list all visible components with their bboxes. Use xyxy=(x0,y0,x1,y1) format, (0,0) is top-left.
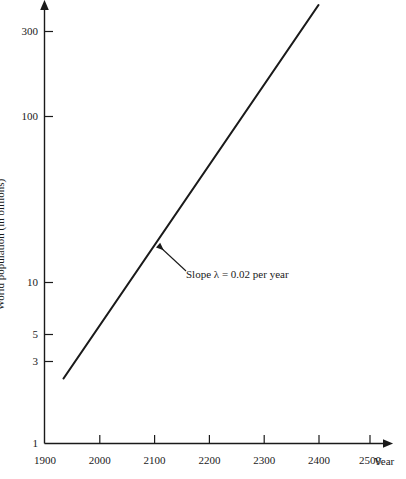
x-axis-title: Year xyxy=(374,456,394,467)
x-tick-label-2400: 2400 xyxy=(308,455,330,466)
plot-area xyxy=(0,0,406,479)
x-tick-label-2200: 2200 xyxy=(198,455,220,466)
y-tick-label-10: 10 xyxy=(12,277,38,288)
annotation-leader-line xyxy=(159,246,187,272)
y-tick-label-100: 100 xyxy=(12,111,38,122)
y-axis-title: World population (in billions) xyxy=(0,179,6,310)
y-tick-marks xyxy=(45,32,54,362)
chart-figure: 300 100 10 5 3 1 1900 2000 2100 2200 230… xyxy=(0,0,406,479)
x-tick-label-2000: 2000 xyxy=(89,455,111,466)
y-tick-label-300: 300 xyxy=(12,26,38,37)
y-tick-label-1: 1 xyxy=(12,438,38,449)
x-tick-label-1900: 1900 xyxy=(34,455,56,466)
data-line-world-population xyxy=(64,5,319,379)
y-tick-label-3: 3 xyxy=(12,356,38,367)
y-tick-label-5: 5 xyxy=(12,329,38,340)
x-tick-label-2300: 2300 xyxy=(253,455,275,466)
x-tick-label-2100: 2100 xyxy=(144,455,166,466)
x-tick-marks xyxy=(100,435,370,444)
slope-annotation-label: Slope λ = 0.02 per year xyxy=(186,268,289,280)
